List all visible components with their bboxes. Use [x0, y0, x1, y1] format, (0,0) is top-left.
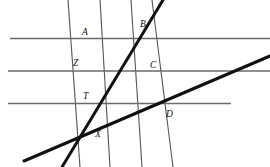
point-label-a: A: [81, 27, 88, 37]
point-label-t: T: [83, 91, 89, 101]
diagram-background: [0, 0, 270, 167]
point-label-d: D: [165, 109, 173, 119]
diagram-canvas: ABZCTDX: [0, 0, 270, 167]
geometry-diagram: ABZCTDX: [0, 0, 270, 167]
point-label-c: C: [150, 60, 157, 70]
point-label-z: Z: [73, 58, 79, 68]
point-label-b: B: [140, 19, 146, 29]
point-label-x: X: [94, 129, 102, 139]
